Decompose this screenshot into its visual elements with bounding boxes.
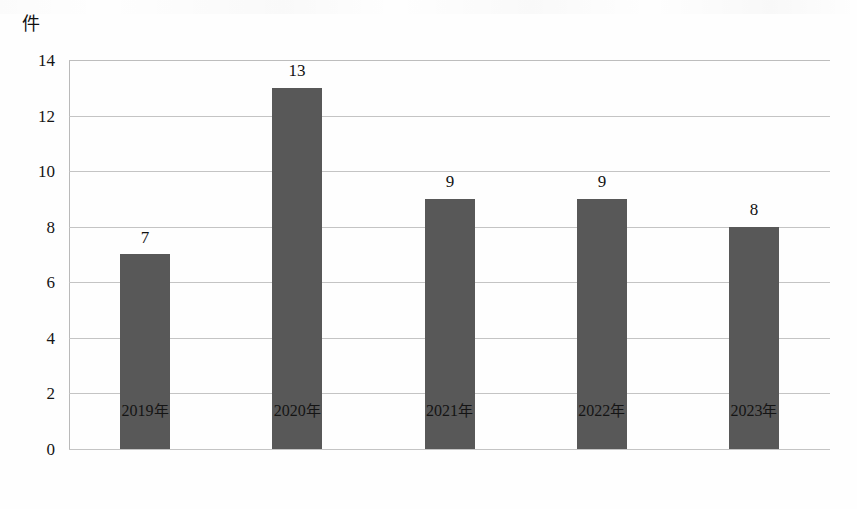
y-tick-label-12: 12 [7,108,55,125]
y-tick-label-6: 6 [7,274,55,291]
bar-value-label-2020年: 13 [252,62,342,79]
x-tick-label-2020年: 2020年 [237,402,357,420]
x-tick-label-2023年: 2023年 [694,402,814,420]
y-tick-label-4: 4 [7,330,55,347]
y-axis-unit-label: 件 [22,14,40,34]
plot-area: 02468101214 713998 [69,60,830,450]
x-tick-label-2021年: 2021年 [390,402,510,420]
y-tick-label-10: 10 [7,163,55,180]
y-tick-label-0: 0 [7,441,55,458]
bar-value-label-2023年: 8 [709,201,799,218]
bar-value-label-2019年: 7 [100,229,190,246]
bar-value-label-2022年: 9 [557,173,647,190]
scan-artifact [0,0,857,14]
y-tick-label-8: 8 [7,219,55,236]
y-tick-label-14: 14 [7,52,55,69]
gridline-0 [69,449,830,450]
x-tick-label-2022年: 2022年 [542,402,662,420]
gridline-14 [69,60,830,61]
bar-2020年[interactable] [272,88,322,449]
bar-value-label-2021年: 9 [405,173,495,190]
y-axis-line [69,60,70,450]
x-tick-label-2019年: 2019年 [85,402,205,420]
chart-page: 件 02468101214 713998 2019年2020年2021年2022… [0,0,857,509]
gridline-12 [69,116,830,117]
y-tick-label-2: 2 [7,385,55,402]
